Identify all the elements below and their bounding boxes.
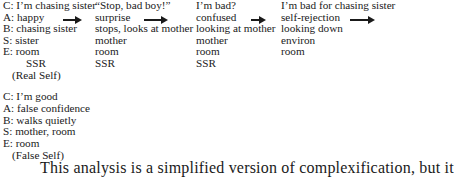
cognition-line: I’m bad?	[196, 0, 276, 12]
arrow-right-icon	[251, 19, 263, 21]
false-self-block: C: I’m good A: false confidence B: walks…	[3, 91, 90, 162]
environment-line: room	[281, 46, 395, 58]
cognition-line: I’m bad for chasing sister	[281, 0, 395, 12]
arrow-right-icon	[63, 19, 79, 21]
cognition-line: C: I’m chasing sister	[3, 0, 96, 12]
affect-line: A: false confidence	[3, 103, 90, 115]
ssr-label: SSR	[95, 58, 193, 70]
step-3-column: I’m bad? confused looking at mother moth…	[196, 0, 276, 70]
step-1-column: C: I’m chasing sister A: happy B: chasin…	[3, 0, 96, 81]
body-paragraph: This analysis is a simplified version of…	[40, 159, 454, 177]
environment-line: E: room	[3, 46, 96, 58]
arrow-right-icon	[350, 19, 372, 21]
ssr-label: SSR	[3, 58, 96, 70]
step-2-column: “Stop, bad boy!” surprise stops, looks a…	[95, 0, 193, 70]
arrow-right-icon	[144, 19, 165, 21]
step-4-column: I’m bad for chasing sister self-rejectio…	[281, 0, 395, 58]
real-self-label: (Real Self)	[3, 70, 96, 82]
ssr-label: SSR	[196, 58, 276, 70]
cognition-line: “Stop, bad boy!”	[95, 0, 193, 12]
